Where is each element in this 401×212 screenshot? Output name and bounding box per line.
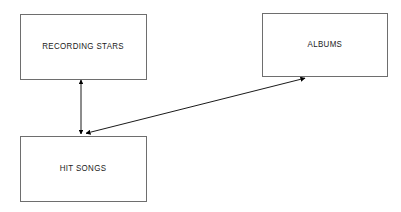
entity-label-hit-songs: HIT SONGS — [60, 165, 107, 173]
entity-label-recording-stars: RECORDING STARS — [43, 43, 125, 51]
entity-box-albums[interactable]: ALBUMS — [262, 13, 388, 77]
entity-box-recording-stars[interactable]: RECORDING STARS — [20, 14, 147, 80]
diagram-canvas: RECORDING STARS ALBUMS HIT SONGS — [0, 0, 401, 212]
entity-label-albums: ALBUMS — [308, 41, 343, 49]
entity-box-hit-songs[interactable]: HIT SONGS — [20, 136, 147, 202]
connector-hit-songs-albums — [86, 78, 305, 133]
